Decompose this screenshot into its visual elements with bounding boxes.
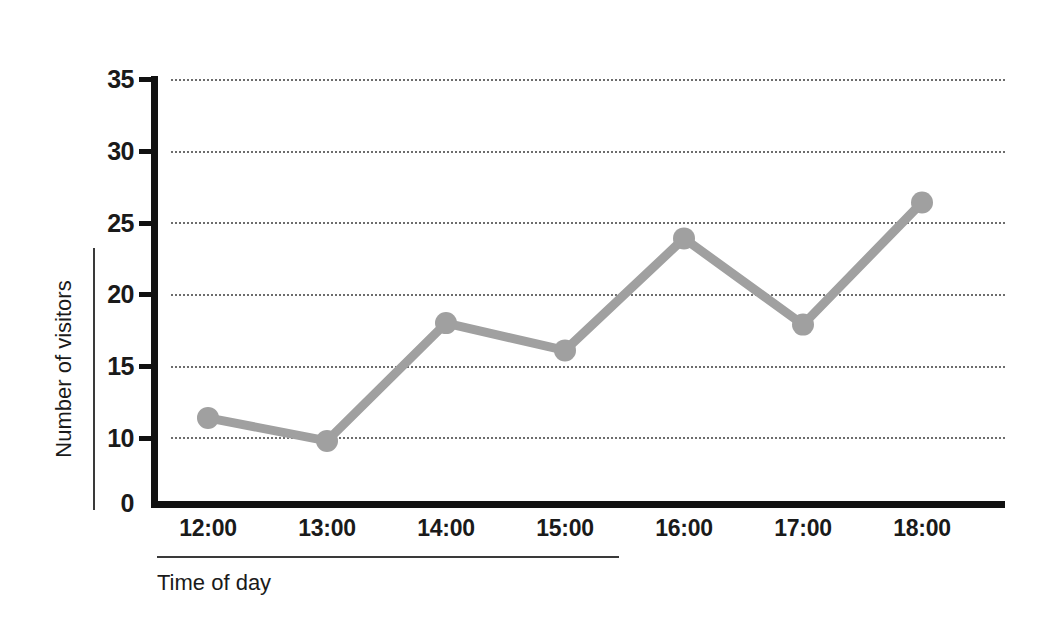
line-chart-figure: 35 30 25 20 15 10 0 12:00 13:00 14:00 15… — [0, 0, 1055, 633]
y-tick-mark-35 — [139, 77, 152, 82]
x-tick-label-17-00: 17:00 — [743, 517, 863, 540]
x-tick-label-12-00: 12:00 — [148, 517, 268, 540]
gridline-25 — [171, 222, 1005, 224]
gridline-15 — [171, 366, 1005, 368]
y-axis-title-rule — [93, 248, 95, 510]
x-tick-label-13-00: 13:00 — [267, 517, 387, 540]
gridline-35 — [171, 79, 1005, 81]
y-tick-mark-30 — [139, 149, 152, 154]
y-axis-line — [151, 76, 158, 508]
y-tick-label-20: 20 — [98, 282, 134, 307]
y-tick-mark-25 — [139, 221, 152, 226]
y-tick-label-0: 0 — [98, 491, 134, 516]
x-tick-label-15-00: 15:00 — [505, 517, 625, 540]
gridline-20 — [171, 294, 1005, 296]
y-tick-label-15: 15 — [98, 354, 134, 379]
y-tick-label-10: 10 — [98, 426, 134, 451]
y-tick-mark-15 — [139, 364, 152, 369]
x-tick-label-14-00: 14:00 — [386, 517, 506, 540]
y-axis-title-group: Number of visitors — [33, 248, 95, 510]
x-tick-label-18-00: 18:00 — [862, 517, 982, 540]
x-axis-title-group: Time of day — [157, 556, 619, 594]
plot-area — [157, 79, 1005, 505]
gridline-10 — [171, 437, 1005, 439]
x-axis-line — [151, 501, 1005, 508]
y-tick-mark-10 — [139, 436, 152, 441]
y-tick-label-25: 25 — [98, 211, 134, 236]
gridline-30 — [171, 151, 1005, 153]
y-tick-mark-20 — [139, 292, 152, 297]
y-tick-label-30: 30 — [98, 139, 134, 164]
y-tick-label-35: 35 — [98, 67, 134, 92]
x-tick-label-16-00: 16:00 — [624, 517, 744, 540]
x-axis-title-rule — [157, 556, 619, 558]
y-axis-title: Number of visitors — [53, 238, 75, 500]
x-axis-title: Time of day — [157, 572, 619, 594]
